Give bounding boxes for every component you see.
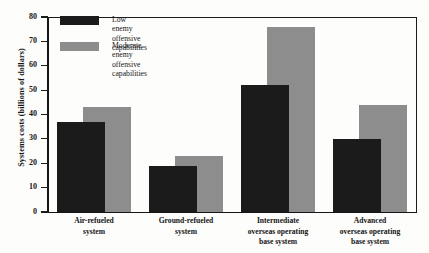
- y-axis-tick-label: 60: [11, 61, 37, 69]
- legend-label: Moderate enemy offensivecapabilities: [112, 41, 147, 79]
- y-axis-tick: [41, 65, 48, 66]
- x-axis-category-label: Advancedoverseas operatingbase system: [324, 216, 416, 248]
- bar-chart: Systems costs (billions of dollars) 8070…: [0, 0, 429, 253]
- bar-low: [333, 139, 381, 212]
- y-axis-tick-label: 30: [11, 134, 37, 142]
- y-axis-tick: [41, 187, 48, 188]
- y-axis-tick: [41, 114, 48, 115]
- y-axis-tick-label: 0: [11, 208, 37, 216]
- y-axis-tick: [41, 211, 48, 212]
- bar-low: [241, 85, 289, 212]
- y-axis-tick-label: 80: [11, 13, 37, 21]
- y-axis-tick-label: 40: [11, 110, 37, 118]
- y-axis-tick: [41, 41, 48, 42]
- y-axis-tick-label: 20: [11, 159, 37, 167]
- y-axis-tick: [41, 138, 48, 139]
- y-axis-tick: [41, 163, 48, 164]
- y-axis-tick: [41, 90, 48, 91]
- y-axis-tick: [41, 16, 48, 17]
- bar-low: [57, 122, 105, 212]
- y-axis-tick-label: 10: [11, 183, 37, 191]
- bar-group: [232, 17, 324, 212]
- legend-swatch-low: [60, 16, 99, 25]
- bar-group: [140, 17, 232, 212]
- x-axis-category-label: Air-refueledsystem: [48, 216, 140, 237]
- y-axis-tick-label: 50: [11, 86, 37, 94]
- legend-swatch-moderate: [60, 42, 99, 51]
- legend-item: Moderate enemy offensivecapabilities: [60, 41, 147, 79]
- bar-group: [324, 17, 416, 212]
- x-axis-category-label: Ground-refueledsystem: [140, 216, 232, 237]
- bar-low: [149, 166, 197, 212]
- x-axis-category-label: Intermediateoverseas operatingbase syste…: [232, 216, 324, 248]
- y-axis-tick-label: 70: [11, 37, 37, 45]
